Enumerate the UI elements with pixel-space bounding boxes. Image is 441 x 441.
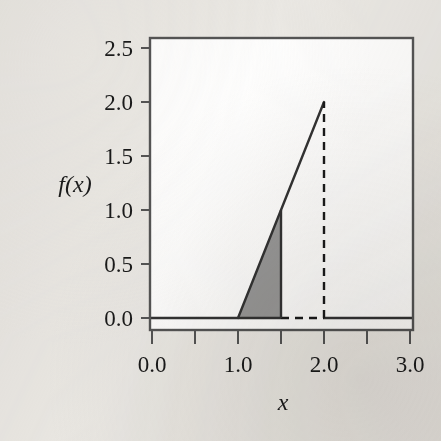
x-axis-title: x: [277, 389, 289, 415]
y-tick-label-5: 2.5: [104, 36, 133, 61]
y-tick-label-0: 0.0: [104, 306, 133, 331]
x-tick-label-2: 2.0: [310, 352, 339, 377]
chart-canvas: 0.0 0.5 1.0 1.5 2.0 2.5 0.0 1.0 2.0 3.0: [0, 0, 441, 441]
figure-container: 0.0 0.5 1.0 1.5 2.0 2.5 0.0 1.0 2.0 3.0: [0, 0, 441, 441]
y-tick-label-2: 1.0: [104, 198, 133, 223]
x-tick-label-0: 0.0: [138, 352, 167, 377]
y-tick-label-4: 2.0: [104, 90, 133, 115]
y-axis-title: f(x): [58, 171, 91, 197]
x-tick-label-3: 3.0: [396, 352, 425, 377]
y-tick-label-3: 1.5: [104, 144, 133, 169]
x-tick-label-1: 1.0: [224, 352, 253, 377]
y-tick-label-1: 0.5: [104, 252, 133, 277]
